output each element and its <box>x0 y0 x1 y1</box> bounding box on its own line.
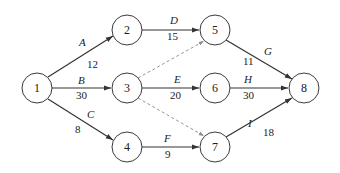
dummy-edge-3-7 <box>138 98 204 136</box>
activity-duration-C: 8 <box>75 123 81 135</box>
node-1-label: 1 <box>34 81 40 95</box>
edge-C <box>48 99 113 140</box>
activity-duration-H: 30 <box>243 89 255 101</box>
activity-name-E: E <box>173 73 181 85</box>
activity-name-F: F <box>163 132 171 144</box>
node-2-label: 2 <box>124 23 130 37</box>
activity-duration-E: 20 <box>170 89 182 101</box>
activity-duration-F: 9 <box>165 148 171 160</box>
activity-duration-A: 12 <box>87 58 98 70</box>
node-5-label: 5 <box>212 23 218 37</box>
edge-G <box>226 40 292 79</box>
activity-name-H: H <box>243 73 253 85</box>
node-4-label: 4 <box>124 140 130 154</box>
node-6-label: 6 <box>212 81 218 95</box>
activity-duration-G: 11 <box>243 55 254 67</box>
edge-I <box>226 98 292 137</box>
activity-name-B: B <box>78 74 85 86</box>
activity-name-C: C <box>87 108 95 120</box>
activity-duration-D: 15 <box>167 30 179 42</box>
network-diagram: A 12 B 30 C 8 D 15 E 20 F 9 G 11 H 30 I … <box>0 0 340 173</box>
activity-duration-B: 30 <box>76 89 88 101</box>
node-4: 4 <box>112 132 142 162</box>
node-7-label: 7 <box>212 140 218 154</box>
node-1: 1 <box>22 73 52 103</box>
activity-name-I: I <box>247 117 253 129</box>
activity-duration-I: 18 <box>263 126 275 138</box>
node-3: 3 <box>112 73 142 103</box>
node-8: 8 <box>289 73 319 103</box>
edge-labels: A 12 B 30 C 8 D 15 E 20 F 9 G 11 H 30 I … <box>75 14 275 160</box>
node-8-label: 8 <box>301 81 307 95</box>
activity-name-A: A <box>78 36 86 48</box>
dummy-edge-3-5 <box>138 41 204 78</box>
activity-name-G: G <box>264 45 272 57</box>
node-7: 7 <box>200 132 230 162</box>
node-6: 6 <box>200 73 230 103</box>
node-3-label: 3 <box>124 81 130 95</box>
node-5: 5 <box>200 15 230 45</box>
activity-name-D: D <box>169 14 178 26</box>
node-2: 2 <box>112 15 142 45</box>
